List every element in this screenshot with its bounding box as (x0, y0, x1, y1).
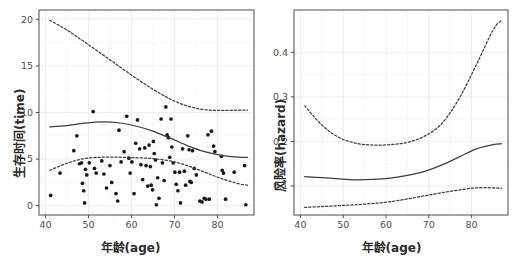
left-data-point (128, 171, 132, 175)
left-data-point (164, 105, 168, 109)
left-data-point (244, 203, 248, 207)
left-data-point (179, 201, 183, 205)
left-data-point (83, 201, 87, 205)
left-data-point (169, 117, 173, 121)
right-panel-background (294, 10, 508, 215)
left-data-point (184, 183, 188, 187)
left-y-axis-title: 生存时间(time) (10, 89, 27, 178)
left-data-point (125, 114, 129, 118)
left-data-point (200, 200, 204, 204)
right-plot-group: 40506070800.10.20.30.4 (273, 10, 508, 230)
left-data-point (182, 169, 186, 173)
left-data-point (243, 164, 247, 168)
left-data-point (155, 203, 159, 207)
right-x-tick-label: 70 (423, 219, 435, 230)
left-data-point (130, 160, 134, 164)
left-data-point (156, 176, 160, 180)
left-y-tick-label: 0 (27, 200, 33, 211)
left-data-point (108, 164, 112, 168)
left-data-point (159, 117, 163, 121)
left-data-point (116, 199, 120, 203)
left-data-point (105, 186, 109, 190)
left-data-point (187, 148, 191, 152)
right-y-axis-title: 风险率(hazard) (271, 99, 288, 192)
left-data-point (141, 178, 145, 182)
left-data-point (186, 134, 190, 138)
left-data-point (114, 192, 118, 196)
left-data-point (75, 134, 79, 138)
left-data-point (138, 147, 142, 151)
left-data-point (174, 182, 178, 186)
left-data-point (176, 189, 180, 193)
plot-right-svg: 40506070800.10.20.30.4 (261, 0, 522, 259)
left-x-tick-label: 80 (211, 219, 223, 230)
left-data-point (149, 183, 153, 187)
left-data-point (117, 128, 121, 132)
right-x-tick-label: 50 (337, 219, 349, 230)
left-data-point (181, 147, 185, 151)
left-data-point (189, 181, 193, 185)
left-data-point (80, 161, 84, 165)
left-data-point (85, 173, 89, 177)
panel-hazard-rate: 40506070800.10.20.30.4 年龄(age) 风险率(hazar… (261, 0, 522, 259)
right-x-tick-label: 40 (294, 219, 306, 230)
left-data-point (93, 167, 97, 171)
left-data-point (91, 110, 95, 114)
left-data-point (170, 145, 174, 149)
left-data-point (224, 197, 228, 201)
right-x-tick-label: 60 (380, 219, 392, 230)
left-x-tick-label: 70 (168, 219, 180, 230)
left-data-point (213, 150, 217, 154)
left-data-point (119, 160, 123, 164)
left-data-point (168, 155, 172, 159)
left-y-tick-label: 20 (21, 14, 33, 25)
left-data-point (102, 172, 106, 176)
left-data-point (81, 181, 85, 185)
left-data-point (147, 143, 151, 147)
panel-survival-time: 405060708005101520 年龄(age) 生存时间(time) (0, 0, 261, 259)
left-data-point (58, 171, 62, 175)
left-y-tick-label: 15 (21, 60, 33, 71)
left-data-point (110, 181, 114, 185)
right-x-tick-label: 80 (466, 219, 478, 230)
left-data-point (100, 159, 104, 163)
left-data-point (94, 171, 98, 175)
left-data-point (139, 163, 143, 167)
left-data-point (178, 170, 182, 174)
left-y-tick-label: 5 (27, 153, 33, 164)
figure-container: 405060708005101520 年龄(age) 生存时间(time) 40… (0, 0, 522, 259)
left-data-point (162, 179, 166, 183)
left-data-point (143, 146, 147, 150)
left-data-point (151, 188, 155, 192)
left-data-point (152, 152, 156, 156)
left-x-tick-label: 60 (125, 219, 137, 230)
plot-left-svg: 405060708005101520 (0, 0, 261, 259)
left-data-point (72, 149, 76, 153)
left-x-axis-title: 年龄(age) (0, 238, 261, 255)
left-data-point (206, 133, 210, 137)
left-data-point (149, 165, 153, 169)
left-data-point (207, 197, 211, 201)
left-data-point (122, 150, 126, 154)
left-plot-group: 405060708005101520 (21, 10, 254, 230)
left-data-point (132, 192, 136, 196)
right-x-axis-title: 年龄(age) (261, 238, 522, 255)
left-data-point (84, 167, 88, 171)
left-data-point (212, 144, 216, 148)
left-data-point (152, 140, 156, 144)
left-data-point (222, 171, 226, 175)
left-data-point (195, 173, 199, 177)
left-data-point (146, 184, 150, 188)
left-data-point (232, 170, 236, 174)
left-data-point (136, 118, 140, 122)
right-y-tick-label: 0.4 (273, 47, 288, 58)
left-data-point (191, 149, 195, 153)
left-data-point (161, 161, 165, 165)
left-data-point (210, 129, 214, 133)
left-data-point (204, 197, 208, 201)
left-data-point (49, 194, 53, 198)
left-data-point (82, 189, 86, 193)
left-data-point (144, 164, 148, 168)
left-data-point (87, 161, 91, 165)
left-data-point (157, 196, 161, 200)
